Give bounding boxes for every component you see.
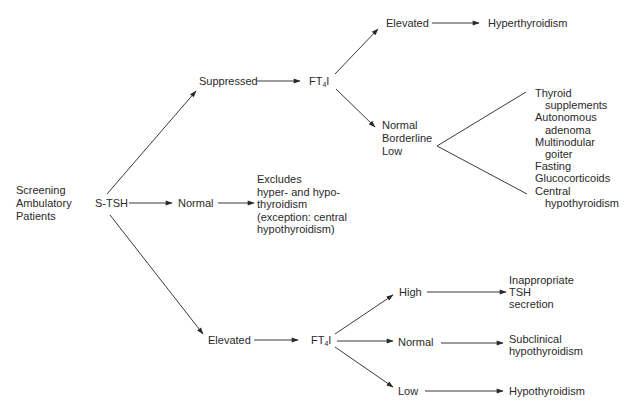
edge-ft4i-elevated — [335, 29, 378, 74]
ft4i-prefix: FT — [311, 334, 324, 346]
node-text: Normal — [382, 119, 432, 132]
node-text: secretion — [509, 298, 574, 310]
thyroid-screening-flowchart: Screening Ambulatory Patients S-TSH Supp… — [0, 0, 633, 409]
edge-stsh-elevated — [110, 215, 203, 334]
node-inappropriate-tsh-secretion: Inappropriate TSH secretion — [509, 274, 574, 310]
node-subclinical-hypothyroidism: Subclinical hypothyroidism — [509, 333, 583, 357]
cause-item: Autonomous — [535, 111, 619, 123]
node-normal-borderline-low: Normal Borderline Low — [382, 119, 432, 158]
node-normal-bottom: Normal — [398, 336, 433, 349]
ft4i-suffix: I — [328, 334, 331, 346]
node-ft4i-top: FT4I — [309, 75, 329, 88]
node-screening-ambulatory-patients: Screening Ambulatory Patients — [16, 184, 72, 223]
node-hypothyroidism: Hypothyroidism — [509, 385, 585, 398]
edge-ft4i-low — [335, 347, 393, 387]
node-text: hypothyroidism — [509, 345, 583, 357]
edge-stsh-suppressed — [107, 91, 196, 194]
node-excludes: Excludes hyper- and hypo- thyroidism (ex… — [257, 173, 347, 236]
node-elevated-top: Elevated — [386, 17, 429, 30]
cause-item: hypothyroidism — [535, 197, 619, 209]
cause-item: Multinodular — [535, 136, 619, 148]
node-ft4i-bottom: FT4I — [311, 334, 331, 347]
node-text: Inappropriate — [509, 274, 574, 286]
node-text: (exception: central — [257, 211, 347, 224]
edge-fan-upper — [437, 92, 526, 146]
node-suppressed: Suppressed — [199, 75, 258, 88]
node-s-tsh: S-TSH — [95, 197, 128, 210]
node-text: Low — [382, 145, 432, 158]
edge-fan-lower — [437, 146, 527, 194]
node-causes-list: Thyroid supplements Autonomous adenoma M… — [535, 87, 619, 209]
node-normal-mid: Normal — [178, 197, 213, 210]
node-text: Ambulatory — [16, 197, 72, 210]
node-text: Screening — [16, 184, 72, 197]
cause-item: Glucocorticoids — [535, 172, 619, 184]
cause-item: Central — [535, 185, 619, 197]
cause-item: Fasting — [535, 160, 619, 172]
ft4i-suffix: I — [326, 75, 329, 87]
node-text: Borderline — [382, 132, 432, 145]
node-high: High — [399, 286, 422, 299]
ft4i-prefix: FT — [309, 75, 322, 87]
node-hyperthyroidism: Hyperthyroidism — [488, 17, 567, 30]
node-elevated-bottom: Elevated — [208, 334, 251, 347]
node-text: Patients — [16, 210, 72, 223]
node-text: TSH — [509, 286, 574, 298]
node-text: Subclinical — [509, 333, 583, 345]
cause-item: adenoma — [535, 124, 619, 136]
node-text: hypothyroidism) — [257, 223, 347, 236]
cause-item: supplements — [535, 99, 619, 111]
cause-item: Thyroid — [535, 87, 619, 99]
edge-ft4i-high — [335, 295, 393, 334]
cause-item: goiter — [535, 148, 619, 160]
node-low: Low — [398, 385, 418, 398]
node-text: hyper- and hypo- — [257, 186, 347, 199]
node-text: thyroidism — [257, 198, 347, 211]
edge-ft4i-normal-borderline-low — [336, 89, 375, 127]
node-text: Excludes — [257, 173, 347, 186]
